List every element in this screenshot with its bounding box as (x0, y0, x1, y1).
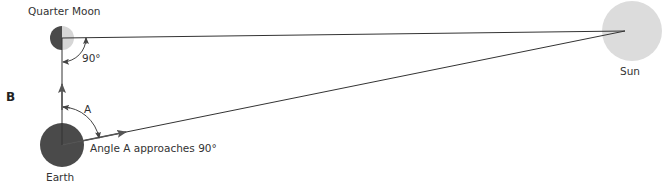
caption: Angle A approaches 90° (90, 142, 217, 154)
diagram-canvas: Sun Quarter Moon Earth 90° A Angle A app… (0, 0, 662, 183)
moon-angle-label: 90° (82, 52, 101, 64)
moon-label: Quarter Moon (28, 5, 100, 17)
earth-label: Earth (46, 171, 74, 183)
moon-sun-line (62, 31, 625, 38)
panel-label: B (6, 90, 15, 104)
earth-angle-label: A (84, 103, 92, 115)
earth-sun-line (62, 31, 625, 145)
sun-label: Sun (620, 65, 640, 77)
